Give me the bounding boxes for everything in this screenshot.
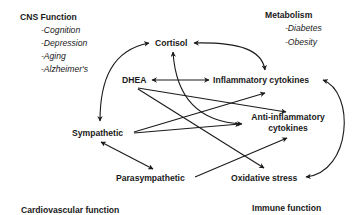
node-oxidative-stress: Oxidative stress — [231, 173, 297, 183]
arrow-cortisol-inflammatory — [194, 43, 265, 70]
arrow-parasympathetic-antiinflammatory — [195, 138, 287, 177]
cardiovascular-function-title: Cardiovascular function — [21, 205, 119, 215]
metabolism-item-diabetes: -Diabetes — [285, 23, 322, 33]
cns-item-depression: -Depression — [41, 38, 87, 48]
metabolism-title: Metabolism — [265, 10, 312, 20]
node-cortisol: Cortisol — [155, 38, 187, 48]
node-dhea: DHEA — [122, 75, 146, 85]
cns-item-alzheimers: -Alzheimer's — [41, 64, 88, 74]
cns-function-title: CNS Function — [20, 12, 77, 22]
metabolism-item-obesity: -Obesity — [285, 37, 317, 47]
node-inflammatory-cytokines: Inflammatory cytokines — [213, 75, 309, 85]
node-anti-inflammatory-line2: cytokines — [244, 123, 332, 133]
arrow-antiinflammatory-cortisol — [173, 52, 242, 124]
immune-function-title: Immune function — [252, 203, 321, 213]
node-sympathetic: Sympathetic — [72, 128, 123, 138]
cns-item-aging: -Aging — [41, 51, 66, 61]
node-parasympathetic: Parasympathetic — [116, 173, 185, 183]
cns-item-cognition: -Cognition — [41, 25, 80, 35]
arrow-sympathetic-parasympathetic — [101, 142, 153, 169]
arrow-sympathetic-antiinflammatory — [134, 124, 240, 133]
node-anti-inflammatory-line1: Anti-inflammatory — [244, 112, 332, 122]
